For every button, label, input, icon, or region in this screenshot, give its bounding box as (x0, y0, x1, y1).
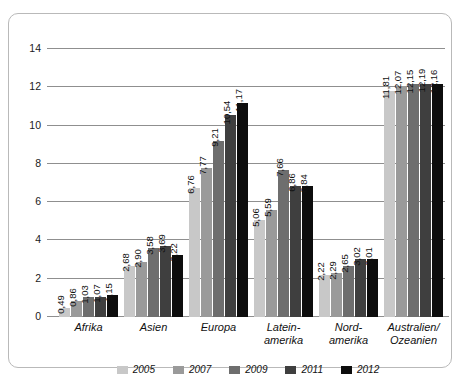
legend-item[interactable]: 2009 (229, 365, 267, 375)
y-axis-tick-label: 2 (35, 272, 41, 283)
bar-group: 2,222,292,653,023,01 (319, 49, 378, 317)
bar-group: 2,682,903,583,693,22 (124, 49, 183, 317)
bar-rect (302, 186, 313, 317)
bar-value-label: 12,19 (416, 69, 426, 93)
legend-swatch (285, 366, 296, 374)
bar[interactable]: 6,84 (302, 186, 313, 317)
bar[interactable]: 3,01 (367, 259, 378, 317)
bar-rect (189, 188, 200, 317)
legend-swatch (173, 366, 184, 374)
bar-rect (237, 103, 248, 317)
legend-label: 2009 (245, 365, 267, 375)
bar[interactable]: 9,21 (213, 141, 224, 317)
bar-value-label: 6,86 (286, 173, 296, 192)
bar-rect (355, 259, 366, 317)
bar-value-label: 6,76 (185, 175, 195, 194)
legend-label: 2012 (357, 365, 379, 375)
bar-rect (420, 84, 431, 317)
bar-value-label: 5,06 (250, 208, 260, 227)
y-axis-tick-label: 0 (35, 311, 41, 322)
bar[interactable]: 2,22 (319, 275, 330, 317)
bar-rect (124, 266, 135, 317)
bar-value-label: 2,68 (120, 253, 130, 272)
bar-rect (319, 275, 330, 317)
bar-group: 5,065,597,666,866,84 (254, 49, 313, 317)
bar[interactable]: 5,06 (254, 220, 265, 317)
y-axis-tick-label: 14 (29, 43, 41, 54)
bar[interactable]: 6,86 (290, 186, 301, 317)
bar-value-label: 3,69 (156, 234, 166, 253)
bar[interactable]: 12,16 (432, 84, 443, 317)
plot-area: 02468101214 0,490,861,031,071,152,682,90… (47, 49, 449, 317)
bar-value-label: 1,07 (91, 284, 101, 303)
bar-rect (201, 168, 212, 317)
bar[interactable]: 6,76 (189, 188, 200, 317)
bar-rect (408, 84, 419, 317)
bar[interactable]: 7,66 (278, 170, 289, 317)
bar-rect (225, 115, 236, 317)
x-axis-category-labels: AfrikaAsienEuropaLatein-amerikaNord-amer… (47, 321, 449, 363)
y-axis-tick-label: 6 (35, 196, 41, 207)
bar-value-label: 0,86 (67, 288, 77, 307)
bar[interactable]: 2,65 (343, 266, 354, 317)
bar[interactable]: 12,15 (408, 84, 419, 317)
bar-rect (172, 255, 183, 317)
bar[interactable]: 10,54 (225, 115, 236, 317)
bar[interactable]: 7,77 (201, 168, 212, 317)
bar[interactable]: 12,19 (420, 84, 431, 317)
bar-rect (396, 86, 407, 317)
bar-rect (266, 210, 277, 317)
chart-frame: 02468101214 0,490,861,031,071,152,682,90… (8, 13, 452, 368)
bar[interactable]: 2,68 (124, 266, 135, 317)
bar[interactable]: 3,02 (355, 259, 366, 317)
bar-rect (432, 84, 443, 317)
legend-item[interactable]: 2005 (117, 365, 155, 375)
bar[interactable]: 2,29 (331, 273, 342, 317)
bar-value-label: 11,81 (380, 76, 390, 99)
legend-item[interactable]: 2011 (285, 365, 323, 375)
y-axis-tick-label: 8 (35, 158, 41, 169)
bar-rect (148, 248, 159, 317)
bar-rect (254, 220, 265, 317)
bar-value-label: 2,90 (132, 249, 142, 268)
bar-value-label: 7,66 (274, 158, 284, 177)
bar-value-label: 12,07 (392, 71, 402, 95)
bar-rect (343, 266, 354, 317)
bar-group: 11,8112,0712,1512,1912,16 (384, 49, 443, 317)
bar-value-label: 3,22 (168, 243, 178, 262)
bar-value-label: 1,15 (103, 283, 113, 302)
bar[interactable]: 1,15 (107, 295, 118, 317)
y-axis-tick-label: 4 (35, 234, 41, 245)
bar[interactable]: 11,81 (384, 91, 395, 317)
bar-value-label: 2,65 (339, 254, 349, 273)
legend-swatch (229, 366, 240, 374)
bar-value-label: 2,29 (327, 261, 337, 280)
legend-label: 2011 (301, 365, 323, 375)
legend-label: 2007 (189, 365, 211, 375)
bar-value-label: 1,03 (79, 285, 89, 304)
bar-value-label: 2,22 (315, 262, 325, 281)
bar-value-label: 3,02 (351, 247, 361, 266)
y-axis-tick-label: 10 (29, 119, 41, 130)
bar-group: 6,767,779,2110,5411,17 (189, 49, 248, 317)
bar[interactable]: 11,17 (237, 103, 248, 317)
bar-value-label: 10,54 (221, 100, 231, 124)
bar-rect (384, 91, 395, 317)
bar-value-label: 9,21 (209, 128, 219, 147)
legend-swatch (117, 366, 128, 374)
bar[interactable]: 12,07 (396, 86, 407, 317)
bar[interactable]: 3,22 (172, 255, 183, 317)
bar-value-label: 6,84 (298, 174, 308, 193)
y-axis-tick-label: 12 (29, 81, 41, 92)
bar-rect (367, 259, 378, 317)
legend-item[interactable]: 2007 (173, 365, 211, 375)
legend-item[interactable]: 2012 (341, 365, 379, 375)
bar-group: 0,490,861,031,071,15 (59, 49, 118, 317)
bar[interactable]: 3,58 (148, 248, 159, 317)
bar-value-label: 3,01 (363, 247, 373, 266)
bar-value-label: 7,77 (197, 156, 207, 175)
bar[interactable]: 2,90 (136, 262, 147, 318)
bar[interactable]: 0,49 (59, 308, 70, 317)
bar-groups: 0,490,861,031,071,152,682,903,583,693,22… (47, 49, 449, 317)
bar[interactable]: 5,59 (266, 210, 277, 317)
